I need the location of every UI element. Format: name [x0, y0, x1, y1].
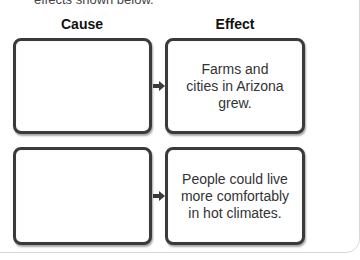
cause-header: Cause — [12, 16, 152, 32]
effect-text-2: People could live more comfortably in ho… — [176, 171, 294, 222]
arrow-right-icon — [153, 191, 165, 201]
effect-box-2: People could live more comfortably in ho… — [165, 147, 305, 245]
effect-text-1: Farms and cities in Arizona grew. — [185, 61, 285, 112]
cause-box-1[interactable] — [13, 38, 152, 134]
effect-box-1: Farms and cities in Arizona grew. — [165, 38, 305, 134]
arrow-right-icon — [153, 81, 165, 91]
cause-box-2[interactable] — [13, 147, 152, 245]
instructions-text: effects shown below. — [34, 0, 154, 7]
effect-header: Effect — [165, 16, 305, 32]
